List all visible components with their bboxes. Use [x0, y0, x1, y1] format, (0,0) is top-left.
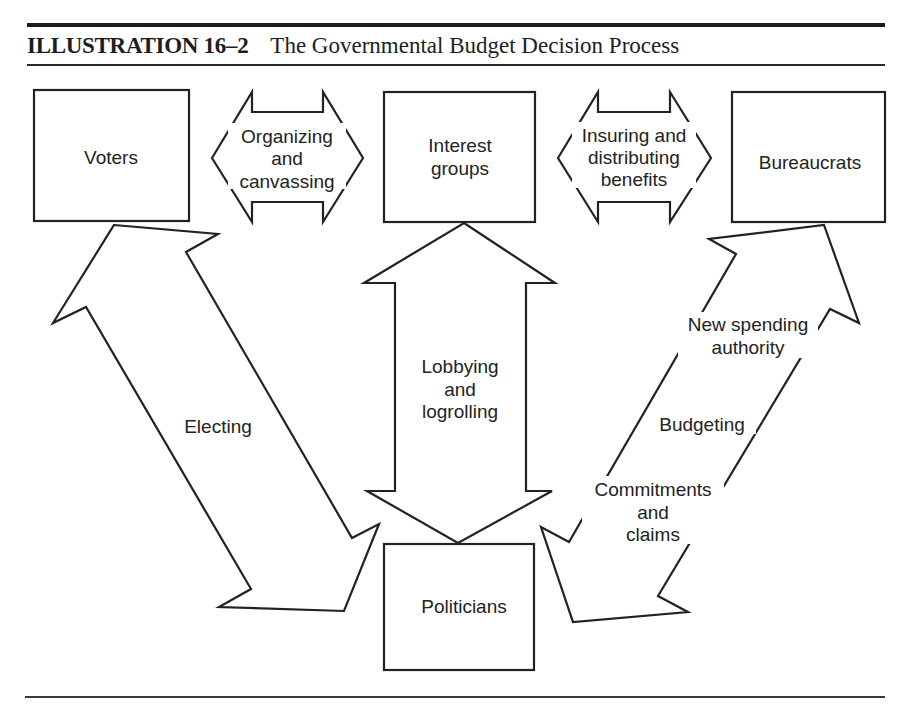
- arrow-budgeting-top-label-line2: authority: [712, 337, 785, 358]
- arrow-lobbying-label-line3: logrolling: [422, 401, 498, 422]
- node-politicians-label: Politicians: [421, 596, 507, 617]
- arrow-budgeting-bottom-label-line2: and: [637, 502, 669, 523]
- arrow-lobbying-logrolling: Lobbying and logrolling: [364, 223, 555, 543]
- arrow-organizing-label-line2: and: [271, 148, 303, 169]
- budget-process-diagram: Voters Interest groups Bureaucrats Organ…: [0, 0, 920, 707]
- node-bureaucrats-label: Bureaucrats: [759, 152, 861, 173]
- node-bureaucrats: Bureaucrats: [732, 92, 885, 222]
- arrow-budgeting-top-label-line1: New spending: [688, 314, 808, 335]
- arrow-electing-label: Electing: [184, 416, 252, 437]
- node-politicians: Politicians: [384, 544, 534, 670]
- arrow-electing: Electing: [53, 225, 379, 611]
- arrow-budgeting-bottom-label-line1: Commitments: [594, 479, 711, 500]
- node-voters-label: Voters: [84, 147, 138, 168]
- arrow-budgeting-middle-label: Budgeting: [659, 414, 745, 435]
- arrow-insuring-label-line1: Insuring and: [582, 125, 687, 146]
- arrow-insuring-label-line3: benefits: [601, 169, 668, 190]
- arrow-organizing-canvassing: Organizing and canvassing: [212, 92, 363, 222]
- arrow-lobbying-label-line2: and: [444, 379, 476, 400]
- arrow-lobbying-label-line1: Lobbying: [421, 356, 498, 377]
- arrow-organizing-label-line1: Organizing: [241, 126, 333, 147]
- node-interest-groups-label-line1: Interest: [428, 135, 492, 156]
- node-voters: Voters: [34, 90, 189, 221]
- arrow-insuring-distributing: Insuring and distributing benefits: [558, 92, 711, 222]
- arrow-insuring-label-line2: distributing: [588, 147, 680, 168]
- arrow-organizing-label-line3: canvassing: [239, 171, 334, 192]
- node-interest-groups-label-line2: groups: [431, 158, 489, 179]
- node-interest-groups: Interest groups: [384, 92, 535, 222]
- arrow-budgeting: New spending authority Budgeting Commitm…: [541, 225, 859, 622]
- arrow-budgeting-bottom-label-line3: claims: [626, 524, 680, 545]
- bottom-rule: [25, 696, 885, 698]
